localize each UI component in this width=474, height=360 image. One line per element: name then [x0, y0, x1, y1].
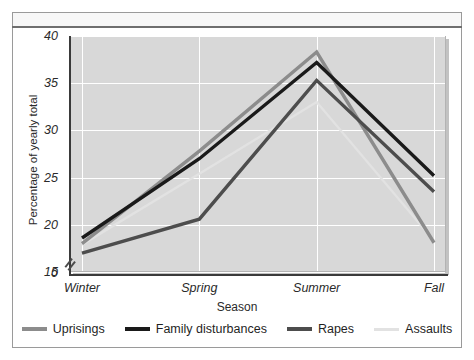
legend-swatch-icon: [22, 327, 47, 331]
legend-swatch-icon: [287, 327, 312, 331]
chart-legend: UprisingsFamily disturbancesRapesAssault…: [14, 322, 460, 336]
legend-label: Uprisings: [53, 322, 105, 336]
series-lines: [0, 0, 474, 360]
legend-item[interactable]: Uprisings: [22, 322, 105, 336]
legend-swatch-icon: [125, 327, 150, 331]
chart-figure: 1520253035400 WinterSpringSummerFall Sea…: [0, 0, 474, 360]
legend-label: Rapes: [318, 322, 354, 336]
legend-item[interactable]: Family disturbances: [125, 322, 267, 336]
legend-swatch-icon: [374, 328, 399, 331]
legend-item[interactable]: Rapes: [287, 322, 354, 336]
series-line-rapes: [82, 80, 434, 253]
legend-label: Assaults: [405, 322, 452, 336]
legend-item[interactable]: Assaults: [374, 322, 452, 336]
legend-label: Family disturbances: [156, 322, 267, 336]
